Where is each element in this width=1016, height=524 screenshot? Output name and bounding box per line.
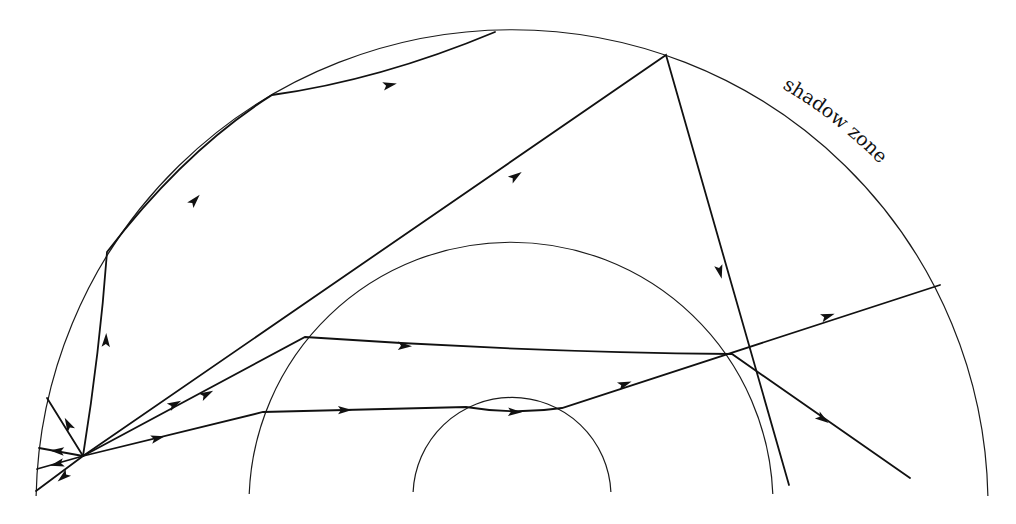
arrowhead-icon [382, 79, 397, 90]
shadow-zone-label: shadow zone [780, 73, 893, 167]
ray-short-up [47, 398, 83, 456]
arrowhead-icon [102, 333, 111, 347]
arrowhead-icon [714, 264, 726, 280]
arrowhead-icon [150, 432, 166, 444]
ray-inner-core [83, 285, 940, 456]
ray-reflected-multiple [83, 32, 495, 456]
boundaries [36, 30, 988, 496]
arrowhead-icon [187, 192, 203, 208]
direction-arrows [49, 79, 836, 484]
arrowhead-icon [50, 446, 65, 455]
shadow-zone-text: shadow zone [780, 73, 893, 167]
core-mantle-boundary-arc [249, 242, 773, 494]
arrowhead-icon [508, 169, 524, 184]
surface-boundary-arc [36, 30, 988, 496]
ray-direct-long [83, 55, 789, 485]
ray-path-diagram: shadow zone [0, 0, 1016, 524]
ray-core-refracted [83, 337, 910, 478]
